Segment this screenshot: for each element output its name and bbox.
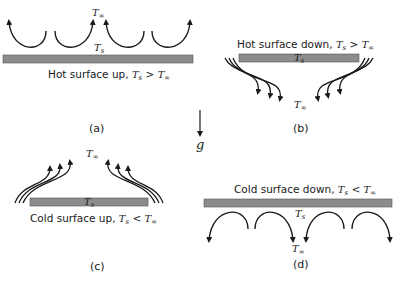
panel-a: T∞ Ts Hot surface up, Ts > T∞ (a) (3, 7, 193, 135)
ambient-label-c: T∞ (86, 148, 99, 161)
ambient-label-b: T∞ (294, 99, 307, 112)
surface-label-a: Ts (94, 42, 105, 55)
condition-b: Hot surface down, Ts > T∞ (237, 38, 374, 52)
surface-label-d: Ts (295, 208, 306, 221)
condition-d: Cold surface down, Ts < T∞ (234, 183, 376, 197)
gravity-label: g (196, 137, 204, 152)
panel-d: Cold surface down, Ts < T∞ Ts T∞ (d) (204, 183, 392, 271)
panel-c: T∞ Ts Cold surface up, Ts < T∞ (c) (15, 148, 163, 273)
gravity-indicator: g (196, 110, 204, 152)
caption-b: (b) (293, 122, 309, 135)
caption-a: (a) (89, 122, 104, 135)
plate-a (3, 55, 193, 63)
convection-diagram: T∞ Ts Hot surface up, Ts > T∞ (a) Hot su… (0, 0, 400, 281)
flow-lines-b (225, 58, 373, 99)
condition-c: Cold surface up, Ts < T∞ (30, 212, 157, 226)
ambient-label-d: T∞ (292, 243, 305, 256)
caption-d: (d) (293, 258, 309, 271)
condition-a: Hot surface up, Ts > T∞ (48, 68, 170, 82)
caption-c: (c) (90, 260, 105, 273)
ambient-label-a: T∞ (92, 7, 105, 20)
plate-d (204, 199, 392, 207)
panel-b: Hot surface down, Ts > T∞ Ts T∞ (b) (225, 38, 374, 135)
